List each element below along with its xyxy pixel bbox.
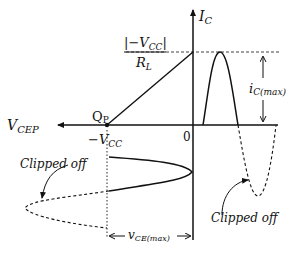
collector-current-waveform [203,52,238,125]
vce-max-label: vCE(max) [128,228,170,243]
y-axis-label: IC [198,8,213,26]
clipped-off-label-right: Clipped off [211,211,280,225]
intercept-numerator: |−VCC| [124,35,167,52]
x-axis-label: VCEP [7,117,39,135]
intercept-denominator: RL [135,55,152,72]
vce-waveform [109,157,192,191]
clipped-right-pointer [222,180,248,215]
clipped-vce-lobe [25,191,109,228]
neg-vcc-label: −VCC [88,132,122,149]
class-b-load-line-diagram: IC VCEP 0 QP −VCC |−VCC| RL iC(max) vCE(… [0,0,300,254]
diagram-canvas: IC VCEP 0 QP −VCC |−VCC| RL iC(max) vCE(… [0,0,300,254]
clipped-off-label-left: Clipped off [20,157,89,171]
q-point-label: QP [92,109,109,125]
clipped-current-lobe [238,125,276,196]
ic-max-label: iC(max) [249,81,287,97]
origin-label: 0 [183,130,191,144]
